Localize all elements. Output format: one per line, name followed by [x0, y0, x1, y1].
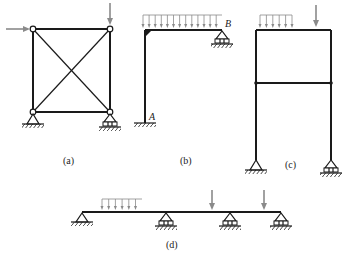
caption-b: (b)	[180, 155, 192, 167]
pin-support-icon	[22, 114, 44, 128]
rigid-joint-icon	[145, 30, 152, 37]
caption-d: (d)	[166, 239, 178, 251]
panel-d-beam: (d)	[71, 190, 292, 251]
pin-support-icon	[71, 213, 93, 226]
panel-a-truss: (a)	[6, 3, 121, 167]
fixed-support-icon	[134, 123, 156, 127]
caption-a: (a)	[63, 155, 74, 167]
distributed-load-icon	[101, 199, 143, 210]
caption-c: (c)	[285, 159, 296, 171]
joint-node	[30, 26, 36, 32]
roller-support-icon	[270, 213, 292, 230]
point-load-arrow-icon	[209, 190, 215, 210]
roller-support-icon	[99, 114, 121, 131]
roller-support-icon	[320, 160, 342, 177]
label-B: B	[225, 18, 231, 29]
distributed-load-icon	[259, 15, 294, 28]
point-load-arrow-icon	[6, 26, 30, 32]
roller-support-icon	[219, 213, 241, 230]
point-load-arrow-icon	[313, 5, 319, 27]
panel-b-frame: B A (b)	[134, 15, 233, 167]
label-A: A	[148, 111, 156, 122]
point-load-arrow-icon	[261, 190, 267, 210]
panel-c-frame: (c)	[245, 5, 342, 177]
roller-support-icon	[211, 31, 233, 48]
structural-diagrams: (a) B A (b)	[0, 0, 350, 271]
pin-support-icon	[245, 160, 267, 174]
joint-node	[107, 26, 113, 32]
roller-support-icon	[155, 213, 177, 230]
distributed-load-icon	[142, 15, 223, 28]
point-load-arrow-icon	[107, 3, 113, 25]
